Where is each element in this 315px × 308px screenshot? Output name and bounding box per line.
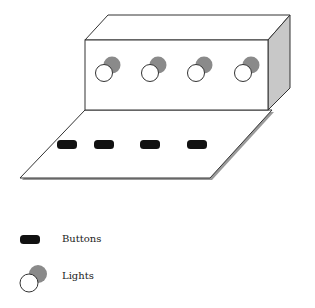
light-front-icon [142,65,159,82]
button-3 [140,140,160,149]
light-front-icon [96,65,113,82]
legend-label-lights: Lights [62,270,94,281]
legend-label-buttons: Buttons [62,233,101,244]
legend-button-icon [20,235,40,244]
button-1 [57,140,77,149]
box-top-face [85,15,290,40]
light-front-icon [188,65,205,82]
button-4 [187,140,207,149]
button-2 [94,140,114,149]
light-front-icon [235,65,252,82]
device-diagram [0,0,315,308]
legend-light-icon [20,265,47,292]
